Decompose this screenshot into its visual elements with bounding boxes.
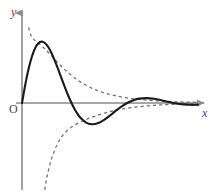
damped-oscillation-curve xyxy=(22,42,198,125)
y-axis-label: y xyxy=(11,6,16,18)
curves xyxy=(22,27,198,189)
lower-envelope-curve xyxy=(45,104,198,190)
x-axis-label: x xyxy=(202,107,207,119)
upper-envelope-curve xyxy=(29,27,198,102)
damped-oscillation-figure: y x O xyxy=(0,0,217,195)
plot-canvas xyxy=(0,0,217,195)
origin-label: O xyxy=(9,103,18,115)
